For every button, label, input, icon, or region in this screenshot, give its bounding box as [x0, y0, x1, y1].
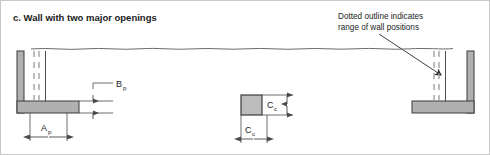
cc-vertical-label: C	[267, 100, 274, 110]
right-wall-footing	[412, 101, 474, 113]
center-column	[241, 95, 262, 115]
figure-title: c. Wall with two major openings	[13, 12, 157, 23]
ap-dimension-subscript: p	[48, 128, 52, 135]
bp-dimension-label: B	[116, 79, 122, 89]
annotation-line-2: range of wall positions	[338, 23, 419, 32]
bp-dimension-subscript: p	[123, 84, 127, 91]
left-wall-footing	[17, 101, 79, 113]
cc-horizontal-label: C	[245, 125, 252, 135]
bp-leader-line	[93, 83, 113, 89]
break-line	[31, 48, 453, 49]
left-wall-inner-edge	[45, 51, 46, 101]
wall-openings-diagram: c. Wall with two major openings Dotted o…	[1, 1, 490, 155]
cc-horizontal-subscript: c	[252, 130, 255, 137]
figure-container: c. Wall with two major openings Dotted o…	[0, 0, 490, 155]
annotation-leader-line	[379, 34, 441, 75]
ap-dimension-label: A	[41, 123, 47, 133]
cc-vertical-subscript: c	[274, 105, 277, 112]
right-wall-inner-edge	[445, 51, 446, 101]
annotation-line-1: Dotted outline indicates	[338, 12, 423, 21]
